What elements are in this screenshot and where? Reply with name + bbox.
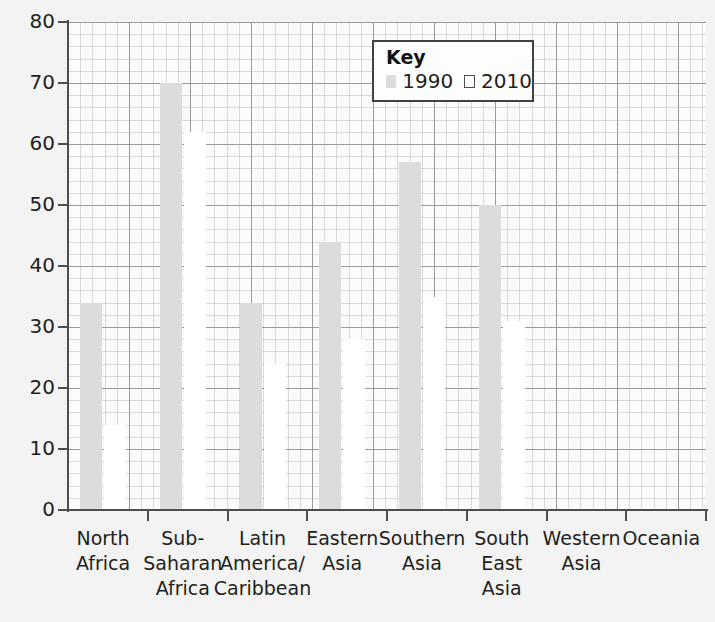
y-axis-tick [58,82,68,84]
bar-2010 [264,364,286,510]
y-axis-tick-label: 20 [15,377,55,397]
y-axis-tick [58,387,68,389]
legend-swatch-1990-icon [386,75,396,88]
legend-label-1990: 1990 [402,70,453,92]
x-axis-tick [466,510,468,521]
legend-swatch-2010-icon [464,75,475,88]
bar-1990 [399,162,421,510]
x-axis-tick [625,510,627,521]
bar-2010 [104,425,126,510]
x-axis-tick [705,510,707,521]
x-axis-line [60,509,708,511]
y-axis-tick-label: 70 [15,72,55,92]
y-axis-tick [58,265,68,267]
y-axis-tick [58,21,68,23]
x-axis-tick [306,510,308,521]
x-axis-category-label: Oceania [606,526,715,551]
legend-box: Key 1990 2010 [372,40,534,102]
y-axis-tick-label: 40 [15,255,55,275]
y-axis-tick-label: 0 [15,499,55,519]
bar-2010 [343,339,365,510]
x-axis-tick [227,510,229,521]
y-axis-tick [58,143,68,145]
y-axis-tick-label: 60 [15,133,55,153]
y-axis-tick [58,509,68,511]
bar-2010 [423,297,445,511]
bar-2010 [184,132,206,510]
bar-2010 [503,321,525,510]
legend-entries: 1990 2010 [386,70,532,92]
x-axis-tick [386,510,388,521]
y-axis-tick-label: 30 [15,316,55,336]
y-axis-tick-label: 50 [15,194,55,214]
y-axis-tick-label: 80 [15,11,55,31]
y-axis-tick [58,448,68,450]
bar-1990 [240,303,262,510]
x-axis-tick [147,510,149,521]
chart-root: 01020304050607080 North AfricaSub- Sahar… [0,0,715,622]
bar-1990 [479,205,501,510]
legend-title: Key [386,47,532,68]
y-axis-tick [58,326,68,328]
x-axis-tick [546,510,548,521]
bar-1990 [319,242,341,510]
y-axis-tick-label: 10 [15,438,55,458]
legend-label-2010: 2010 [481,70,532,92]
bar-1990 [80,303,102,510]
bar-1990 [160,83,182,510]
y-axis-tick [58,204,68,206]
